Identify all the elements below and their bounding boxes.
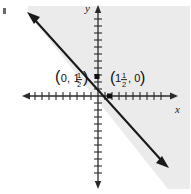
x-axis-arrow-left bbox=[22, 93, 30, 100]
y-axis-label: y bbox=[84, 2, 90, 14]
label-y-fraction-numerator: 1 bbox=[77, 71, 81, 80]
linear-inequality-graph: x y (0, 1 1 2 ) ( 1 1 2 , 0 ) bbox=[0, 0, 191, 194]
label-x-fraction-denominator: 2 bbox=[122, 80, 126, 89]
label-x-fraction-numerator: 1 bbox=[122, 71, 126, 80]
coordinate-plane-svg: x y (0, 1 1 2 ) ( 1 1 2 , 0 ) bbox=[0, 0, 191, 194]
point-marker-x-intercept bbox=[107, 94, 112, 99]
label-x-close-paren: ) bbox=[140, 69, 145, 86]
y-axis-arrow-down bbox=[95, 181, 101, 189]
label-y-close-paren: ) bbox=[83, 69, 88, 86]
corner-artifact bbox=[3, 8, 6, 14]
svg-text:, 0: , 0 bbox=[128, 72, 140, 84]
shaded-half-plane-top bbox=[28, 6, 190, 13]
label-y-intercept: (0, 1 1 2 ) bbox=[55, 68, 88, 89]
label-y-comma: , bbox=[67, 72, 73, 84]
label-y-fraction-denominator: 2 bbox=[77, 80, 81, 89]
label-x-whole: 1 bbox=[115, 72, 121, 84]
x-axis-label: x bbox=[174, 103, 180, 115]
point-marker-y-intercept bbox=[95, 74, 100, 79]
